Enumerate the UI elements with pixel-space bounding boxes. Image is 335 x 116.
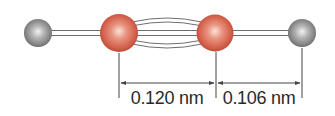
hydrogen-atom-right <box>288 19 316 47</box>
carbon-atom-left <box>100 14 138 52</box>
cc-bond-length-label: 0.120 nm <box>131 88 204 108</box>
triple-bond-c1-c2 <box>132 18 202 48</box>
single-bond-c2-h2 <box>228 31 294 36</box>
single-bond-h1-c1 <box>46 31 106 36</box>
acetylene-bond-diagram: 0.120 nm 0.106 nm <box>0 0 335 116</box>
hydrogen-atom-left <box>24 19 52 47</box>
carbon-atom-right <box>197 15 234 52</box>
ch-bond-length-label: 0.106 nm <box>223 88 296 108</box>
